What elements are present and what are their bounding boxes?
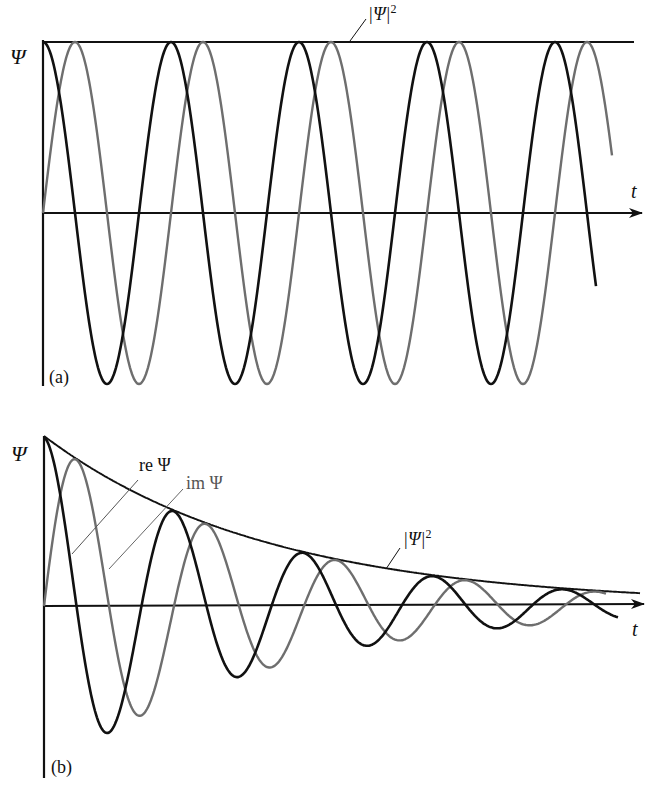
panel-a-label: (a) — [49, 367, 69, 388]
panel-b-im-leader — [109, 489, 183, 569]
panel-b-re-leader — [72, 480, 138, 554]
panel-b-envelope-text: |Ψ| — [403, 529, 426, 549]
panel-b — [44, 436, 644, 778]
panel-b-envelope-curve — [44, 436, 640, 593]
panel-a-y-axis-label: Ψ — [10, 44, 25, 70]
panel-b-envelope-leader — [386, 548, 400, 569]
panel-b-y-axis-label: Ψ — [11, 441, 26, 467]
panel-a-envelope-exponent: 2 — [391, 2, 397, 16]
panel-a-envelope-leader — [350, 19, 366, 41]
panel-b-im-label: im Ψ — [186, 473, 223, 494]
panel-b-re-label: re Ψ — [139, 455, 171, 476]
panel-a-envelope-text: |Ψ| — [368, 4, 391, 24]
panel-b-envelope-exponent: 2 — [426, 527, 432, 541]
figure-canvas — [0, 0, 652, 787]
panel-a — [43, 19, 642, 386]
panel-a-t-axis-label: t — [631, 180, 637, 203]
panel-b-envelope-label: |Ψ|2 — [403, 527, 432, 550]
panel-b-t-axis — [44, 604, 644, 606]
panel-b-t-axis-label: t — [632, 618, 638, 641]
panel-a-envelope-label: |Ψ|2 — [368, 2, 397, 25]
panel-b-label: (b) — [51, 757, 72, 778]
